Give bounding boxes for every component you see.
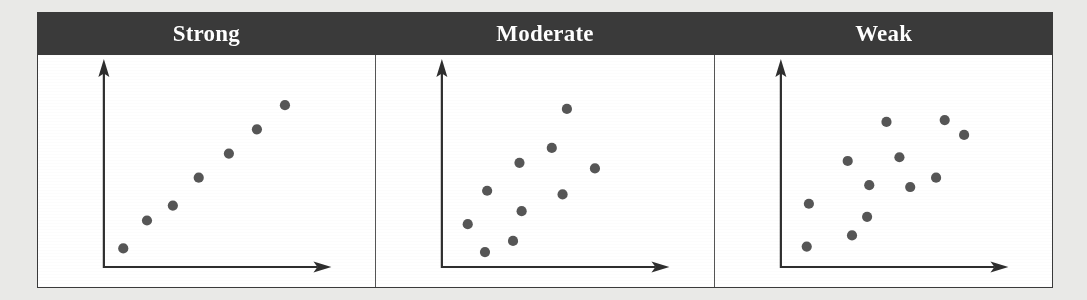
panel-title-strong: Strong (37, 12, 376, 55)
data-point (508, 236, 518, 246)
axis-lines-moderate (442, 73, 656, 267)
panel-title-moderate: Moderate (376, 12, 715, 55)
data-point (463, 219, 473, 229)
data-point (558, 189, 568, 199)
scatterplot-panels (38, 55, 1052, 287)
data-point (252, 124, 262, 134)
data-point (959, 130, 969, 140)
data-point (939, 115, 949, 125)
data-point (801, 241, 811, 251)
panel-title-weak: Weak (714, 12, 1053, 55)
data-point (515, 158, 525, 168)
data-points-weak (801, 115, 969, 252)
data-point (118, 243, 128, 253)
data-points-strong (118, 100, 290, 253)
data-point (480, 247, 490, 257)
axis-lines-weak (781, 73, 995, 267)
data-point (847, 230, 857, 240)
data-point (517, 206, 527, 216)
data-point (864, 180, 874, 190)
axes-weak (775, 59, 1008, 273)
data-point (881, 117, 891, 127)
data-point (803, 199, 813, 209)
scatterplot-panel-moderate (375, 55, 713, 287)
data-point (194, 173, 204, 183)
data-point (224, 148, 234, 158)
data-point (562, 104, 572, 114)
data-point (547, 143, 557, 153)
data-point (894, 152, 904, 162)
data-point (862, 212, 872, 222)
data-point (905, 182, 915, 192)
data-point (590, 163, 600, 173)
scatter-plot-moderate (376, 55, 713, 287)
data-point (931, 173, 941, 183)
scatterplot-panel-weak (714, 55, 1052, 287)
data-point (168, 201, 178, 211)
scatter-plot-weak (715, 55, 1052, 287)
axes-strong (98, 59, 331, 273)
axes-moderate (437, 59, 670, 273)
data-point (280, 100, 290, 110)
data-points-moderate (463, 104, 600, 257)
data-point (142, 215, 152, 225)
data-point (842, 156, 852, 166)
scatter-plot-strong (38, 55, 375, 287)
correlation-strength-figure: Strong Moderate Weak (37, 12, 1053, 288)
data-point (482, 186, 492, 196)
panel-title-bar: Strong Moderate Weak (37, 12, 1053, 55)
scatterplot-panel-strong (38, 55, 375, 287)
